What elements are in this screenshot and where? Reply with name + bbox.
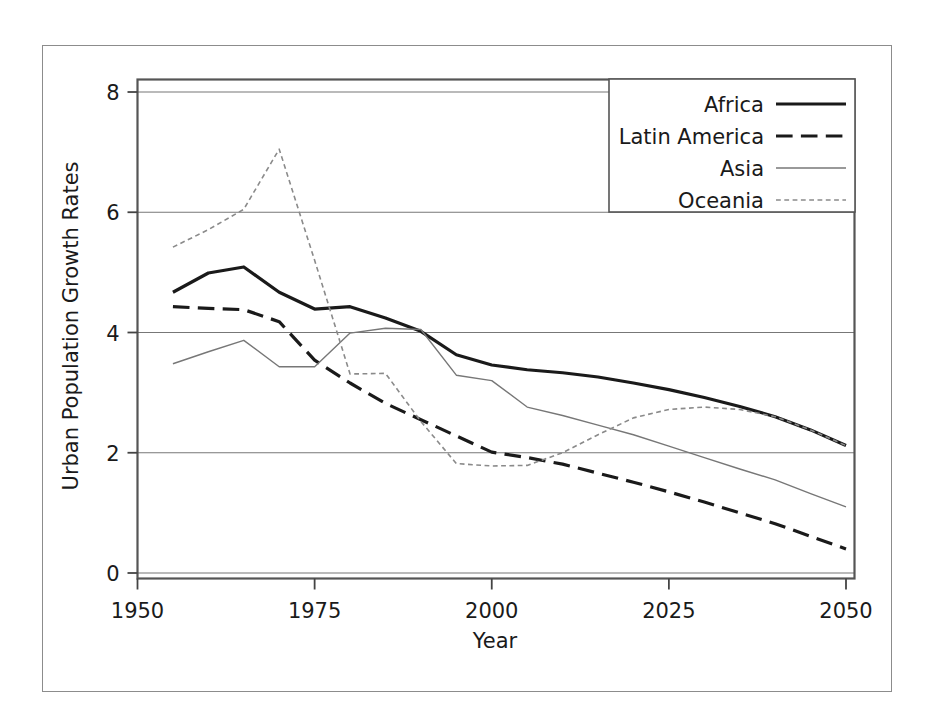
x-tick-labels: 19501975200020252050	[111, 599, 873, 623]
x-tick-label-2000: 2000	[465, 599, 518, 623]
legend-label-africa: Africa	[704, 93, 764, 117]
x-tick-label-2025: 2025	[642, 599, 695, 623]
figure-root: 02468 19501975200020252050 Urban Populat…	[0, 0, 929, 723]
y-tick-label-8: 8	[106, 81, 119, 105]
series-line-africa	[173, 267, 846, 446]
legend-label-oceania: Oceania	[678, 189, 764, 213]
y-tick-marks	[128, 92, 138, 573]
x-tick-marks	[138, 579, 847, 590]
legend-label-latin-america: Latin America	[619, 125, 764, 149]
y-tick-label-4: 4	[106, 322, 119, 346]
x-axis-title: Year	[472, 629, 518, 653]
y-tick-labels: 02468	[106, 81, 119, 586]
y-tick-label-6: 6	[106, 201, 119, 225]
line-chart: 02468 19501975200020252050 Urban Populat…	[0, 0, 929, 723]
legend: AfricaLatin AmericaAsiaOceania	[609, 79, 855, 213]
y-tick-label-0: 0	[106, 562, 119, 586]
legend-label-asia: Asia	[720, 157, 764, 181]
series-line-asia	[173, 328, 846, 507]
y-axis-title: Urban Population Growth Rates	[59, 162, 83, 491]
y-tick-label-2: 2	[106, 442, 119, 466]
x-tick-label-2050: 2050	[819, 599, 872, 623]
x-tick-label-1975: 1975	[288, 599, 341, 623]
x-tick-label-1950: 1950	[111, 599, 164, 623]
series-line-latin-america	[173, 307, 846, 549]
